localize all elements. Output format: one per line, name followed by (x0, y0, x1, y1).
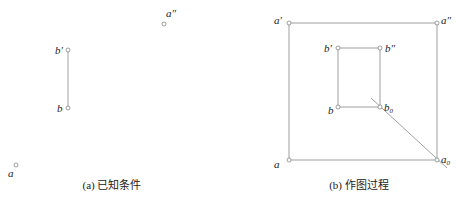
label-b-double-prime: b″ (385, 42, 396, 54)
figure-b: a′ a″ b′ b″ b b0 a a0 (b) 作图过程 (274, 14, 452, 192)
label-b0: b0 (384, 101, 394, 115)
diagonal-45-line (371, 98, 447, 168)
label-a0: a0 (441, 153, 451, 167)
point-a (14, 163, 18, 167)
point-b-prime (336, 46, 340, 50)
label-a: a (274, 158, 280, 170)
figure-a: a″ b′ b a (a) 已知条件 (8, 7, 177, 192)
point-b0 (378, 105, 382, 109)
label-b: b (57, 102, 63, 114)
point-b (66, 106, 70, 110)
label-a-double-prime: a″ (441, 14, 452, 26)
label-b-prime: b′ (324, 42, 333, 54)
caption-a: (a) 已知条件 (83, 178, 142, 192)
point-b-prime (66, 48, 70, 52)
point-a (287, 158, 291, 162)
label-a: a (8, 167, 14, 179)
caption-b: (b) 作图过程 (329, 179, 389, 192)
point-b-double-prime (378, 46, 382, 50)
point-a0 (435, 158, 439, 162)
label-b-prime: b′ (55, 44, 64, 56)
point-a-double-prime (435, 21, 439, 25)
point-a-prime (287, 21, 291, 25)
inner-rectangle (338, 48, 380, 107)
outer-rectangle (289, 23, 437, 160)
label-b: b (328, 104, 334, 116)
point-b (336, 105, 340, 109)
label-a-prime: a′ (274, 14, 283, 26)
projection-diagram: a″ b′ b a (a) 已知条件 a′ a″ b′ b″ b b0 a a0… (0, 0, 456, 201)
point-a-double-prime (162, 22, 166, 26)
label-a-double-prime: a″ (166, 7, 177, 19)
